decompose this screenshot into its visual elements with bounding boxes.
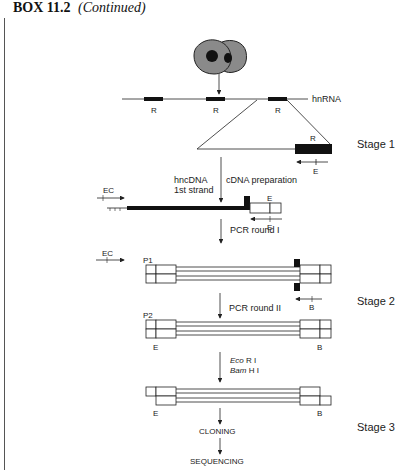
- rt-pcr-cloning-diagram: R R R hnRNA R E Stage 1 hncDNA 1st stran…: [0, 0, 404, 470]
- ecori-label: Eco R I: [230, 356, 256, 365]
- b-primer: B: [296, 296, 322, 312]
- cdna-prep-label: cDNA preparation: [226, 175, 297, 185]
- p1-product: EC P1: [96, 249, 331, 291]
- svg-text:E: E: [153, 343, 158, 352]
- bamhi-label: Bam H I: [230, 366, 259, 375]
- hnrna-strand: R R R hnRNA: [122, 94, 341, 115]
- svg-text:E: E: [153, 409, 158, 418]
- svg-text:P1: P1: [143, 256, 153, 265]
- cell-icon: [194, 40, 247, 74]
- svg-text:EC: EC: [103, 186, 114, 195]
- svg-text:E: E: [267, 194, 272, 203]
- svg-text:R: R: [275, 106, 281, 115]
- sequencing-label: SEQUENCING: [190, 457, 244, 466]
- first-strand-label: 1st strand: [174, 185, 214, 195]
- svg-text:EC: EC: [102, 249, 113, 258]
- svg-text:R: R: [213, 106, 219, 115]
- svg-text:R: R: [310, 134, 316, 143]
- svg-text:hnRNA: hnRNA: [312, 94, 341, 104]
- pcr-round-1-label: PCR round I: [230, 225, 280, 235]
- svg-text:P2: P2: [143, 311, 153, 320]
- hncdna-label: hncDNA: [174, 175, 208, 185]
- svg-text:B: B: [309, 303, 314, 312]
- pcr-round-2-label: PCR round II: [229, 303, 281, 313]
- svg-text:E: E: [313, 167, 318, 176]
- stage-2-label: Stage 2: [357, 295, 395, 307]
- digested-product: E B: [146, 387, 331, 418]
- svg-text:B: B: [317, 409, 322, 418]
- cloning-label: CLONING: [199, 427, 235, 436]
- svg-text:R: R: [151, 106, 157, 115]
- p2-product: P2 E B: [143, 311, 331, 352]
- stage-3-label: Stage 3: [357, 421, 395, 433]
- svg-text:B: B: [317, 343, 322, 352]
- stage-1-label: Stage 1: [357, 138, 395, 150]
